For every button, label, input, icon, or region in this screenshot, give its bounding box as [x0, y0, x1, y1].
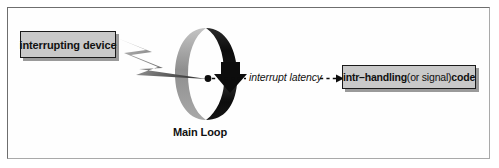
main-loop-label: Main Loop	[173, 126, 227, 138]
interrupting-device-box[interactable]: interrupting device	[20, 31, 116, 58]
intr-handling-label: intr–handling	[343, 71, 407, 83]
interrupt-bolt-arrow	[117, 38, 207, 79]
intr-handling-code-box[interactable]: intr–handling (or signal) code	[342, 65, 476, 89]
loop-direction-arrowhead	[214, 62, 247, 93]
junction-dot	[205, 75, 212, 82]
figure-container: interrupting device intr–handling (or si…	[0, 0, 499, 168]
or-signal-label: (or signal)	[407, 71, 451, 83]
code-label: code	[451, 71, 475, 83]
interrupt-latency-label: interrupt latency	[249, 71, 322, 83]
interrupting-device-label: interrupting device	[19, 39, 116, 51]
loop-left-arc	[175, 28, 206, 120]
